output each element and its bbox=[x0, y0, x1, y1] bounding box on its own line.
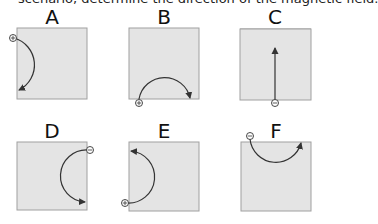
positive-charge-icon bbox=[10, 35, 17, 42]
panel-e bbox=[122, 142, 200, 211]
panel-f bbox=[241, 133, 311, 212]
positive-charge-icon bbox=[122, 200, 129, 207]
positive-charge-icon bbox=[136, 100, 143, 107]
field-box-b bbox=[129, 28, 199, 99]
panel-c bbox=[240, 29, 311, 107]
panel-a bbox=[10, 28, 88, 99]
field-box-a bbox=[17, 28, 87, 99]
negative-charge-icon bbox=[87, 147, 94, 154]
field-box-f bbox=[241, 142, 311, 211]
panel-d bbox=[17, 142, 94, 210]
negative-charge-icon bbox=[247, 133, 254, 140]
negative-charge-icon bbox=[272, 100, 279, 107]
panel-b bbox=[129, 28, 199, 107]
